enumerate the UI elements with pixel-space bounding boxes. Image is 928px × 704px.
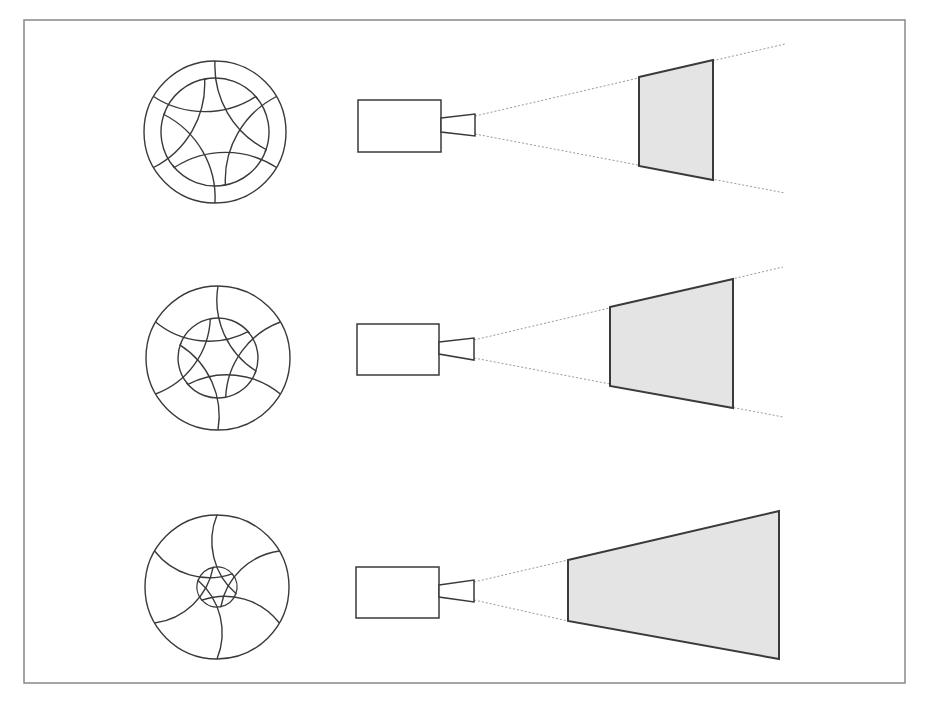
aperture-blade (187, 322, 281, 398)
aperture-blade (164, 79, 215, 204)
row-1 (144, 44, 785, 203)
camera-body (358, 100, 441, 152)
aperture-blade (156, 318, 250, 394)
row-3 (145, 511, 779, 659)
aperture-blade (178, 343, 280, 394)
aperture-blade (156, 322, 258, 373)
beam-line-top (474, 560, 568, 582)
light-field-trapezoid (639, 60, 713, 180)
light-field-trapezoid (610, 279, 733, 408)
aperture-iris-icon (144, 61, 286, 203)
aperture-diagram (0, 0, 928, 704)
aperture-blade (215, 61, 266, 186)
aperture-blade (154, 97, 269, 153)
camera-lens (439, 580, 474, 602)
beam-line-bottom (474, 600, 568, 621)
aperture-iris-icon (146, 286, 290, 430)
row-2 (146, 267, 783, 430)
aperture-blade (198, 567, 222, 659)
aperture-outer-ring (144, 61, 286, 203)
camera-lens (439, 338, 474, 360)
aperture-blade (161, 112, 276, 168)
diagram-rows (144, 44, 785, 659)
aperture-blade (155, 551, 237, 594)
aperture-outer-ring (146, 286, 290, 430)
beam-line-top (475, 44, 785, 116)
aperture-blade (212, 515, 236, 607)
aperture-iris-icon (145, 515, 289, 659)
camera-body (357, 324, 439, 375)
camera-body (356, 567, 439, 618)
camera-lens (441, 114, 475, 136)
light-field-trapezoid (568, 511, 779, 659)
aperture-blade (197, 580, 279, 623)
beam-line-bottom (475, 134, 785, 193)
aperture-outer-ring (145, 515, 289, 659)
